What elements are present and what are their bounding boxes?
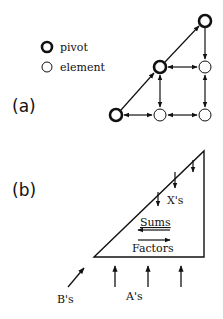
- element-node-bottom-right: [199, 109, 211, 121]
- panel-b: (b) X's Sums Factors B's A's: [12, 151, 204, 306]
- panel-a-label: (a): [12, 96, 36, 116]
- pivot-node-top: [199, 15, 211, 27]
- pivot-diagram: pivot element (a): [0, 0, 223, 319]
- element-node-bottom-middle: [154, 109, 166, 121]
- b-arrow: [68, 268, 84, 287]
- a-arrows: [115, 266, 181, 287]
- a-label: A's: [125, 290, 143, 303]
- legend-element-label: element: [60, 61, 106, 74]
- legend: pivot element: [42, 41, 106, 74]
- panel-b-label: (b): [12, 180, 36, 200]
- sums-label: Sums: [140, 216, 171, 229]
- pivot-node-bottom: [110, 109, 122, 121]
- element-node-middle-right: [199, 61, 211, 73]
- legend-pivot-label: pivot: [60, 41, 88, 54]
- x-label: X's: [167, 194, 184, 207]
- legend-element-icon: [42, 62, 52, 72]
- b-label: B's: [57, 293, 74, 306]
- factors-label: Factors: [132, 242, 174, 255]
- legend-pivot-icon: [42, 42, 52, 52]
- pivot-node-middle: [154, 61, 166, 73]
- panel-a: pivot element (a): [12, 15, 211, 121]
